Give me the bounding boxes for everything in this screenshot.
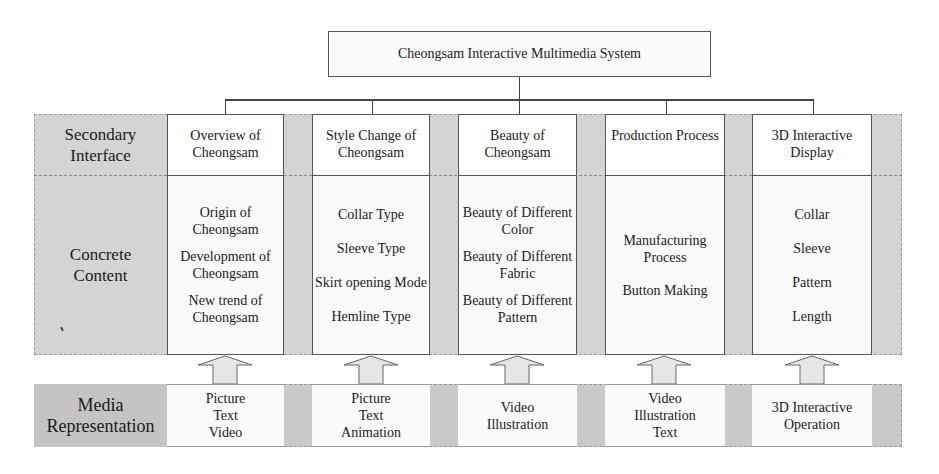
content-node-overview: Origin of Cheongsam Development of Cheon…	[167, 175, 284, 355]
secondary-node-production: Production Process	[605, 114, 725, 175]
secondary-node-style-change: Style Change of Cheongsam	[312, 114, 430, 175]
content-node-production: Manufacturing Process Button Making	[605, 175, 725, 355]
content-item: Sleeve Type	[337, 240, 405, 257]
secondary-node-title: 3D Interactive Display	[772, 127, 852, 161]
content-item: Skirt opening Mode	[315, 274, 427, 291]
secondary-node-3d-display: 3D Interactive Display	[752, 114, 872, 175]
row-label-concrete-text: Concrete Content	[70, 244, 131, 286]
secondary-node-title: Production Process	[611, 127, 719, 144]
up-arrow-icon	[489, 355, 545, 385]
row-label-concrete-content: Concrete Content	[34, 175, 167, 355]
media-cell-text: Video Illustration Text	[634, 390, 695, 441]
content-item: Sleeve	[793, 240, 830, 257]
up-arrow-icon	[197, 355, 253, 385]
content-item: Origin of Cheongsam	[192, 204, 258, 238]
secondary-node-title: Style Change of Cheongsam	[326, 127, 416, 161]
up-arrow-icon	[636, 355, 692, 385]
media-cell-overview: Picture Text Video	[167, 384, 284, 447]
branch-drop-1	[225, 99, 226, 114]
content-node-3d-display: Collar Sleeve Pattern Length	[752, 175, 872, 355]
secondary-node-title: Beauty of Cheongsam	[484, 127, 550, 161]
branch-drop-5	[813, 99, 814, 114]
content-item: Manufacturing Process	[623, 232, 706, 266]
content-item: Collar Type	[338, 206, 404, 223]
content-item: Length	[792, 308, 832, 325]
content-item: Pattern	[792, 274, 832, 291]
content-node-style-change: Collar Type Sleeve Type Skirt opening Mo…	[312, 175, 430, 355]
content-item: Beauty of Different Color	[463, 204, 572, 238]
secondary-node-beauty: Beauty of Cheongsam	[458, 114, 577, 175]
media-cell-text: Video Illustration	[487, 399, 548, 433]
media-cell-production: Video Illustration Text	[605, 384, 725, 447]
branch-drop-4	[666, 99, 667, 114]
content-item: Beauty of Different Pattern	[463, 292, 572, 326]
row-label-secondary-interface: Secondary Interface	[34, 114, 167, 175]
content-item: Hemline Type	[331, 308, 410, 325]
media-cell-beauty: Video Illustration	[458, 384, 577, 447]
media-cell-text: 3D Interactive Operation	[772, 399, 852, 433]
root-node-label: Cheongsam Interactive Multimedia System	[398, 46, 641, 62]
branch-drop-2	[372, 99, 373, 114]
media-cell-3d-display: 3D Interactive Operation	[752, 384, 872, 447]
media-cell-text: Picture Text Animation	[341, 390, 401, 441]
up-arrow-icon	[343, 355, 399, 385]
row-label-media-representation: Media Representation	[34, 384, 167, 447]
content-item: Button Making	[622, 282, 707, 299]
content-item: Development of Cheongsam	[180, 248, 271, 282]
content-item: New trend of Cheongsam	[189, 292, 263, 326]
root-node: Cheongsam Interactive Multimedia System	[328, 31, 711, 77]
row-label-media-text: Media Representation	[47, 395, 155, 437]
root-connector-vertical	[519, 77, 520, 99]
secondary-node-overview: Overview of Cheongsam	[167, 114, 284, 175]
row-label-secondary-text: Secondary Interface	[65, 124, 137, 166]
media-cell-style-change: Picture Text Animation	[312, 384, 430, 447]
media-cell-text: Picture Text Video	[206, 390, 246, 441]
content-item: Collar	[795, 206, 830, 223]
content-item: Beauty of Different Fabric	[463, 248, 572, 282]
branch-drop-3	[519, 99, 520, 114]
content-node-beauty: Beauty of Different Color Beauty of Diff…	[458, 175, 577, 355]
up-arrow-icon	[784, 355, 840, 385]
secondary-node-title: Overview of Cheongsam	[190, 127, 260, 161]
